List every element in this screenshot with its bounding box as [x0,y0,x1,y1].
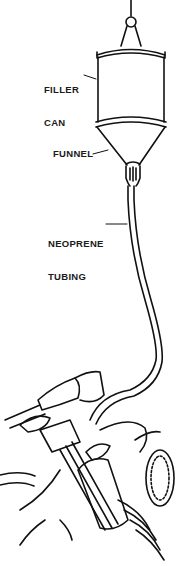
label-filler-can-line1: FILLER [44,84,79,95]
label-filler-can-line2: CAN [44,117,79,128]
label-neoprene-tubing-line1: NEOPRENE [48,238,104,249]
funnel [97,127,165,165]
label-filler-can: FILLER CAN [44,62,79,139]
filler-can [96,50,166,128]
nozzle [126,166,140,186]
motorcycle-front [0,372,174,560]
label-funnel: FUNNEL [53,148,93,159]
hook-icon [121,0,141,46]
label-neoprene-tubing: NEOPRENE TUBING [48,216,104,293]
label-neoprene-tubing-line2: TUBING [48,271,104,282]
